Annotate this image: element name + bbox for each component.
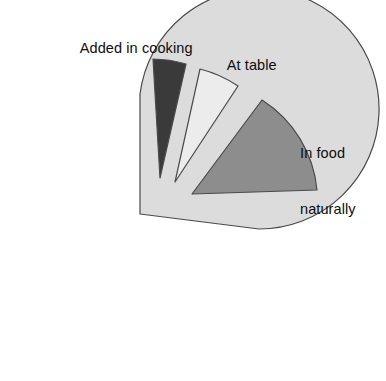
pie-label-in-food-naturally-line-2: naturally: [300, 200, 356, 219]
pie-label-added-in-cooking: Added in cooking: [64, 22, 193, 75]
pie-label-in-food-naturally-line-1: In food: [300, 144, 356, 163]
pie-chart: Added in cooking At table In food natura…: [0, 0, 386, 381]
pie-label-added-in-cooking-text: Added in cooking: [80, 40, 193, 56]
pie-label-processed-packaged-and-restaurant-food: Processed, packaged and restaurant food: [77, 345, 218, 381]
pie-label-at-table-text: At table: [227, 57, 277, 73]
pie-label-in-food-naturally: In food naturally: [300, 106, 356, 257]
pie-label-at-table: At table: [211, 39, 277, 92]
